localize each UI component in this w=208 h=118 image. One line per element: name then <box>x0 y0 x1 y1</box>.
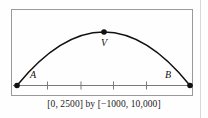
point-a-marker <box>14 83 20 89</box>
point-b-label: B <box>165 70 171 80</box>
figure-panel: A V B [0, 2500] by [−1000, 10,000] <box>0 0 208 118</box>
viewing-window-caption: [0, 2500] by [−1000, 10,000] <box>0 99 208 109</box>
point-v-label: V <box>101 38 107 48</box>
point-b-marker <box>187 83 193 89</box>
point-v-marker <box>101 29 107 35</box>
point-a-label: A <box>30 70 36 80</box>
